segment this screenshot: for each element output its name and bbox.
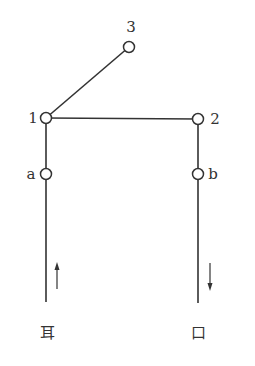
node-label-2: 2 (210, 110, 220, 128)
arrow-up-icon (55, 262, 60, 289)
node-1 (41, 113, 52, 124)
terminal-label-mouth: 口 (191, 324, 206, 342)
terminal-label-ear: 耳 (40, 324, 55, 342)
node-label-b: b (208, 165, 218, 183)
edge-1-2 (46, 118, 198, 119)
node-a (41, 169, 52, 180)
node-label-1: 1 (28, 109, 38, 127)
arrow-down-icon (208, 263, 213, 291)
diagram-canvas: 3 1 2 a b 耳 口 (0, 0, 255, 366)
node-3 (124, 42, 135, 53)
node-b (193, 169, 204, 180)
node-label-a: a (27, 165, 36, 183)
node-2 (193, 114, 204, 125)
edge-1-3 (46, 47, 129, 118)
node-label-3: 3 (126, 18, 136, 36)
